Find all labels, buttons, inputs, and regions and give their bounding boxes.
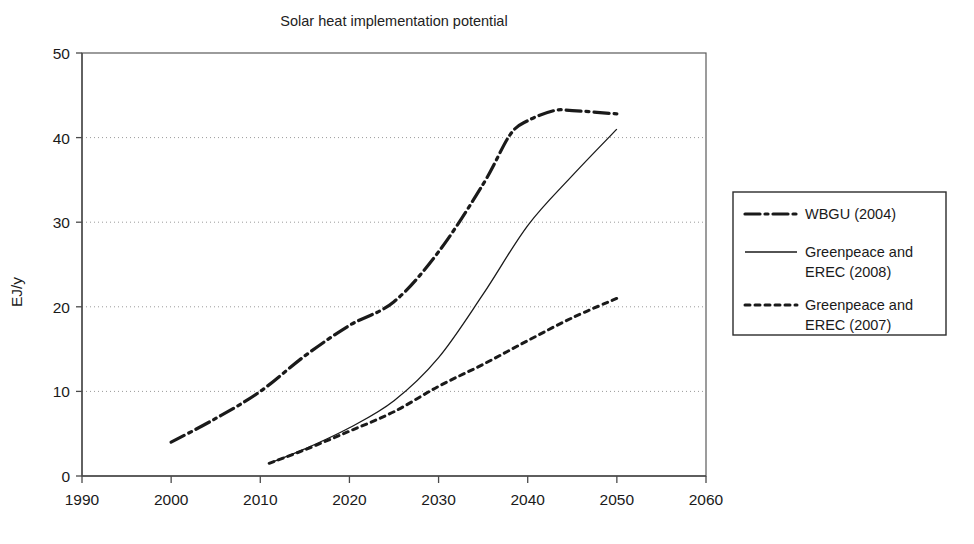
y-tick-label-40: 40 (53, 130, 71, 147)
x-tick-label-2050: 2050 (600, 491, 635, 508)
chart-title: Solar heat implementation potential (280, 13, 507, 29)
x-tick-label-2030: 2030 (421, 491, 456, 508)
x-tick-label-1990: 1990 (65, 491, 100, 508)
chart-figure: Solar heat implementation potential 0102… (0, 0, 974, 544)
x-tick-label-2020: 2020 (332, 491, 367, 508)
solar-heat-potential-chart: Solar heat implementation potential 0102… (0, 0, 974, 544)
chart-legend: WBGU (2004)Greenpeace andEREC (2008)Gree… (733, 192, 946, 335)
x-tick-label-2000: 2000 (154, 491, 189, 508)
x-tick-label-2010: 2010 (243, 491, 278, 508)
y-tick-label-0: 0 (61, 468, 70, 485)
legend-label-1: Greenpeace and (805, 244, 913, 260)
y-tick-label-50: 50 (53, 45, 71, 62)
x-tick-label-2040: 2040 (510, 491, 545, 508)
x-tick-label-2060: 2060 (689, 491, 724, 508)
legend-label-2: Greenpeace and (805, 297, 913, 313)
legend-label-2-line2: EREC (2007) (805, 317, 891, 333)
legend-label-1-line2: EREC (2008) (805, 264, 891, 280)
y-tick-label-20: 20 (53, 299, 71, 316)
y-tick-label-30: 30 (53, 214, 71, 231)
legend-label-0: WBGU (2004) (805, 206, 896, 222)
y-axis-title: EJ/y (8, 277, 25, 307)
y-tick-label-10: 10 (53, 383, 71, 400)
